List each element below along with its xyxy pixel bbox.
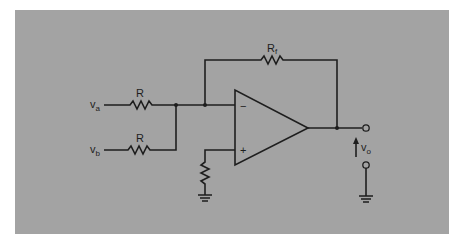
junction-dot [174,103,178,107]
ground-icon [359,196,373,202]
junction-dot [335,126,339,130]
resistor-b-label: R [136,132,144,144]
output-voltage-label: vo [361,141,372,156]
input-a-label: va [90,98,101,113]
reference-terminal [363,162,369,168]
feedback-branch [205,56,337,128]
ground-icon [198,195,212,201]
resistor-a-label: R [136,87,144,99]
inverting-input-sign: − [240,100,246,112]
ground-resistor-branch [198,150,235,201]
feedback-resistor-label: Rf [267,42,278,56]
input-b-branch [104,105,176,154]
noninverting-input-sign: + [240,144,246,156]
arrow-head-icon [353,137,359,144]
output-terminal [363,125,369,131]
input-b-label: vb [90,143,101,158]
input-a-branch [104,101,175,109]
summing-amplifier-circuit: − + va vb R R Rf vo [0,0,455,248]
